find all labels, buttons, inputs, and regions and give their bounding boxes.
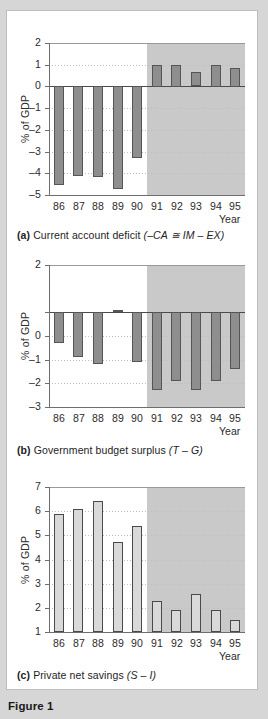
y-axis-tick-label: –4: [11, 166, 41, 178]
x-axis-tick-label: 92: [167, 637, 187, 649]
chart-panel-b: 20–1–2–386878889909192939495Year% of GDP…: [7, 239, 258, 464]
x-axis-tick-label: 93: [186, 637, 206, 649]
bar-94: [211, 610, 221, 632]
bar-86: [54, 312, 64, 343]
x-axis-tick-label: 90: [127, 200, 147, 212]
bar-87: [73, 509, 83, 632]
bar-95: [230, 68, 240, 87]
x-axis-tick-label: 90: [127, 412, 147, 424]
bar-95: [230, 312, 240, 369]
plot-top-border: [49, 43, 245, 44]
bar-91: [152, 312, 162, 390]
y-gridline: [49, 383, 245, 384]
y-axis-tick-label: 2: [11, 36, 41, 48]
chart-panel-c: 765432186878889909192939495Year% of GDP(…: [7, 461, 258, 689]
bar-87: [73, 312, 83, 357]
x-axis-tick-label: 92: [167, 200, 187, 212]
x-axis-tick-label: 93: [186, 412, 206, 424]
y-axis-tick-label: –2: [11, 376, 41, 388]
x-axis-tick-label: 93: [186, 200, 206, 212]
x-axis-tick-label: 86: [49, 637, 69, 649]
x-axis-tick-label: 91: [147, 412, 167, 424]
x-axis-tick-label: 86: [49, 200, 69, 212]
y-axis-tick-label: –3: [11, 400, 41, 412]
x-axis-tick-label: 94: [206, 200, 226, 212]
y-axis-tick-label: 2: [11, 258, 41, 270]
x-axis-tick-label: 89: [108, 637, 128, 649]
y-axis-tick-label: 7: [11, 480, 41, 492]
bar-93: [191, 594, 201, 632]
x-axis-line: [49, 407, 245, 408]
bar-90: [132, 312, 142, 362]
bar-92: [171, 65, 181, 87]
bar-88: [93, 501, 103, 632]
x-axis-tick-label: 88: [88, 200, 108, 212]
bar-92: [171, 610, 181, 632]
x-axis-tick-label: 95: [225, 412, 245, 424]
x-axis-tick-label: 91: [147, 637, 167, 649]
y-axis-line: [49, 265, 50, 407]
x-axis-line: [49, 632, 245, 633]
bar-88: [93, 86, 103, 177]
bar-88: [93, 312, 103, 364]
bar-95: [230, 620, 240, 632]
bar-93: [191, 72, 201, 86]
x-axis-tick-label: 90: [127, 637, 147, 649]
x-axis-tick-label: 87: [69, 200, 89, 212]
y-axis-title: % of GDP: [19, 312, 31, 360]
x-axis-title-year: Year: [219, 650, 240, 662]
plot-top-border: [49, 265, 245, 266]
bar-94: [211, 65, 221, 87]
x-axis-tick-label: 87: [69, 637, 89, 649]
bar-86: [54, 86, 64, 185]
bar-89: [113, 310, 123, 312]
x-axis-tick-label: 94: [206, 637, 226, 649]
y-axis-tick-label: –5: [11, 188, 41, 200]
x-axis-tick-label: 89: [108, 200, 128, 212]
x-axis-tick-label: 89: [108, 412, 128, 424]
y-axis-line: [49, 487, 50, 632]
panel-caption-text: Government budget surplus: [34, 444, 166, 456]
figure-card: 210–1–2–3–4–586878889909192939495Year% o…: [6, 10, 258, 690]
y-axis-tick-label: 6: [11, 504, 41, 516]
bar-89: [113, 542, 123, 632]
x-axis-tick-label: 92: [167, 412, 187, 424]
y-axis-tick-label: 2: [11, 601, 41, 613]
panel-caption-tag: (b): [17, 444, 31, 456]
x-axis-tick-label: 95: [225, 200, 245, 212]
y-axis-tick-label: –3: [11, 145, 41, 157]
panel-caption-formula: (T – G): [169, 444, 203, 456]
chart-panel-a: 210–1–2–3–4–586878889909192939495Year% o…: [7, 17, 258, 249]
y-axis-tick-label: 1: [11, 58, 41, 70]
panel-caption-text: Private net savings: [33, 669, 124, 681]
bar-94: [211, 312, 221, 381]
x-axis-tick-label: 95: [225, 637, 245, 649]
bar-90: [132, 86, 142, 158]
x-axis-tick-label: 94: [206, 412, 226, 424]
bar-93: [191, 312, 201, 390]
y-axis-title: % of GDP: [19, 535, 31, 583]
bar-86: [54, 514, 64, 632]
panel-caption-c: (c) Private net savings (S – I): [17, 669, 156, 681]
panel-caption-tag: (c): [17, 669, 30, 681]
x-axis-tick-label: 87: [69, 412, 89, 424]
bar-92: [171, 312, 181, 381]
y-axis-tick-label: 0: [11, 79, 41, 91]
x-axis-title-year: Year: [219, 425, 240, 437]
x-axis-tick-label: 88: [88, 637, 108, 649]
bar-89: [113, 86, 123, 189]
x-axis-tick-label: 86: [49, 412, 69, 424]
y-axis-title: % of GDP: [19, 95, 31, 143]
bar-91: [152, 65, 162, 87]
x-axis-tick-label: 91: [147, 200, 167, 212]
panel-caption-b: (b) Government budget surplus (T – G): [17, 444, 203, 456]
bar-91: [152, 601, 162, 632]
plot-top-border: [49, 487, 245, 488]
x-axis-line: [49, 195, 245, 196]
x-axis-title-year: Year: [219, 213, 240, 225]
bar-90: [132, 526, 142, 632]
figure-caption-label: Figure 1: [8, 700, 54, 712]
y-axis-tick-label: 1: [11, 625, 41, 637]
panel-caption-formula: (S – I): [127, 669, 156, 681]
x-axis-tick-label: 88: [88, 412, 108, 424]
